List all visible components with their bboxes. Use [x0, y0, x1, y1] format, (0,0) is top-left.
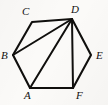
vertex-label-e: E [96, 50, 103, 61]
vertex-label-d: D [71, 4, 79, 15]
diagonal-d-to-b [13, 19, 72, 55]
hexagon-figure: C D B E A F [0, 0, 108, 105]
hexagon-drawing-canvas [0, 0, 108, 105]
diagonal-d-to-f [72, 19, 73, 88]
vertex-label-a: A [24, 90, 31, 101]
vertex-label-b: B [1, 50, 8, 61]
vertex-label-c: C [22, 6, 29, 17]
diagonal-d-to-a [30, 19, 72, 88]
vertex-label-f: F [76, 90, 83, 101]
